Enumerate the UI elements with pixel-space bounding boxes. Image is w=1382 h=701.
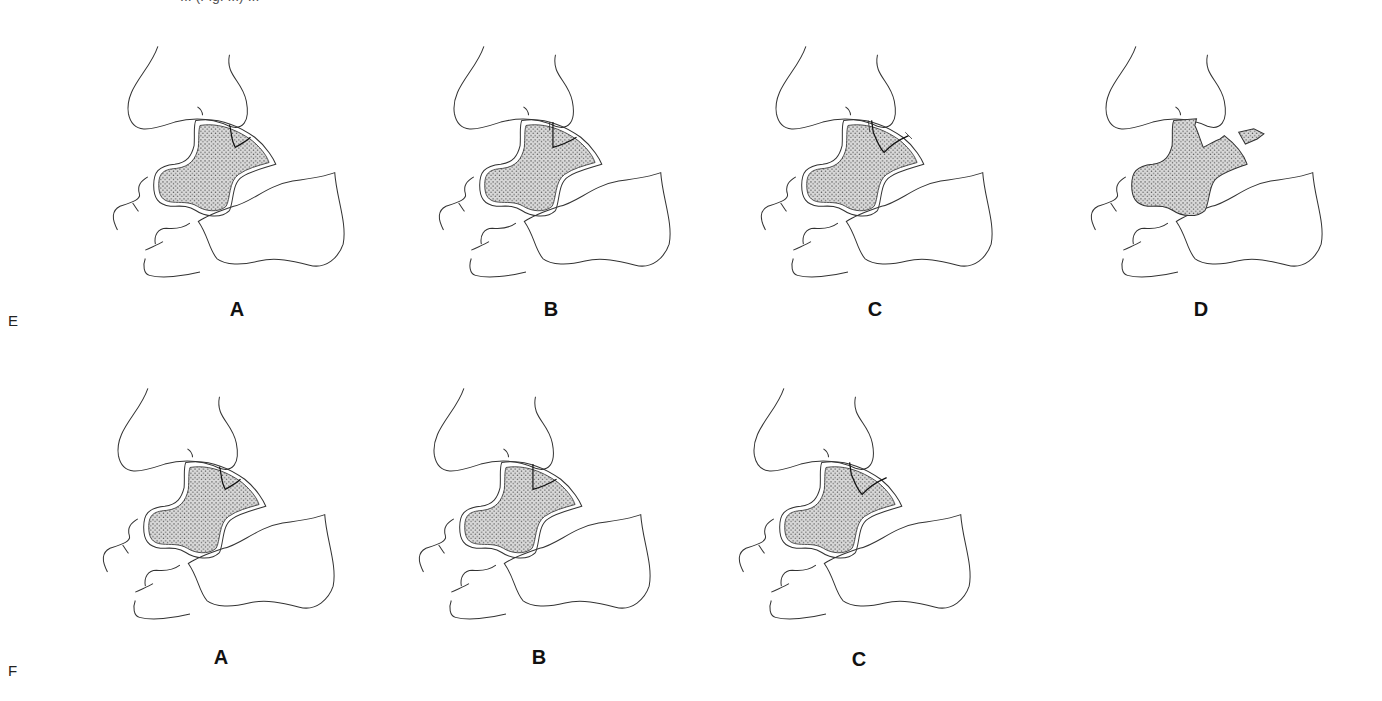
panel-label: C	[844, 648, 874, 671]
clipped-caption: ... (Fig. ...) ...	[180, 0, 259, 4]
ankle-diagram	[688, 20, 1008, 300]
row-label-e: E	[8, 312, 18, 329]
panel-f-c: C	[666, 362, 986, 672]
panel-label: A	[222, 298, 252, 321]
panel-e-d: D	[1018, 20, 1338, 330]
panel-f-a: A	[30, 362, 350, 672]
ankle-diagram	[346, 362, 666, 642]
panel-f-b: B	[346, 362, 666, 672]
displaced-fragment	[1239, 129, 1264, 144]
panel-label: B	[536, 298, 566, 321]
panel-e-c: C	[688, 20, 1008, 330]
row-label-f: F	[8, 662, 17, 679]
ankle-diagram	[30, 362, 350, 642]
ankle-diagram	[40, 20, 360, 300]
panel-label: C	[860, 298, 890, 321]
panel-e-b: B	[366, 20, 686, 330]
panel-label: B	[524, 646, 554, 669]
ankle-diagram	[1018, 20, 1338, 300]
ankle-diagram	[666, 362, 986, 642]
panel-label: A	[206, 646, 236, 669]
panel-label: D	[1186, 298, 1216, 321]
panel-e-a: A	[40, 20, 360, 330]
ankle-diagram	[366, 20, 686, 300]
